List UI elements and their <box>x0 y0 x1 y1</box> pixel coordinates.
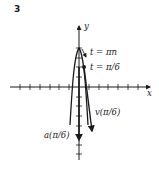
acceleration-label: a(π/6) <box>44 130 70 140</box>
direction-arrow-icon <box>82 49 86 57</box>
y-axis-label: y <box>84 21 89 31</box>
velocity-label: v(π/6) <box>95 107 120 117</box>
x-axis <box>10 84 150 90</box>
t-apex-label: t = πn <box>90 47 117 57</box>
t-point-label: t = π/6 <box>90 62 120 72</box>
plot-canvas <box>0 0 159 169</box>
x-axis-label: x <box>147 88 152 98</box>
